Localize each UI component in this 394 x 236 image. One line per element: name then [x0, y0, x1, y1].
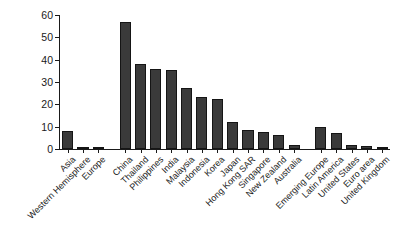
bar-series — [60, 15, 390, 149]
bar — [377, 147, 388, 149]
x-axis-tick — [68, 150, 69, 153]
y-axis-tick-label: 0 — [3, 144, 53, 155]
x-axis-tick-label: Thailand — [119, 155, 150, 186]
bar — [212, 99, 223, 149]
x-axis-tick — [248, 150, 249, 153]
y-axis-tick-label: 10 — [3, 121, 53, 132]
x-axis-tick — [141, 150, 142, 153]
x-axis-tick-label: Korea — [203, 155, 226, 178]
bar — [227, 122, 238, 149]
y-axis-tick-label: 20 — [3, 99, 53, 110]
x-axis-tick — [367, 150, 368, 153]
x-axis-tick — [187, 150, 188, 153]
x-axis-tick-label: Malaysia — [165, 155, 196, 186]
x-axis-tick-label: Euro area — [342, 155, 376, 189]
bar — [361, 146, 372, 149]
y-axis-tick-label: 40 — [3, 54, 53, 65]
bar — [289, 145, 300, 149]
bar-chart: 0102030405060 AsiaWestern HemisphereEuro… — [0, 0, 394, 236]
x-axis-tick — [336, 150, 337, 153]
x-axis-tick-label: New Zealand — [244, 155, 288, 199]
x-axis-tick — [125, 150, 126, 153]
bar — [93, 147, 104, 149]
x-axis-tick — [83, 150, 84, 153]
x-axis-tick-label: Philippines — [128, 155, 165, 192]
x-axis-tick-label: India — [160, 155, 180, 175]
x-axis-tick-label: Emerging Europe — [274, 155, 330, 211]
bar — [166, 70, 177, 149]
bar — [120, 22, 131, 149]
bar — [77, 147, 88, 149]
x-axis-tick-label: Europe — [81, 155, 108, 182]
x-axis-tick-label: Australia — [272, 155, 303, 186]
y-axis-tick-label: 50 — [3, 32, 53, 43]
x-axis-tick-label: United Kingdom — [340, 155, 392, 207]
x-axis-line — [59, 149, 390, 150]
y-axis-labels: 0102030405060 — [0, 0, 53, 236]
bar — [62, 131, 73, 149]
bar — [273, 135, 284, 149]
y-axis-tick-label: 60 — [3, 10, 53, 21]
x-axis-tick-label: Latin America — [301, 155, 346, 200]
x-axis-tick — [279, 150, 280, 153]
bar — [181, 88, 192, 149]
x-axis-tick-label: United States — [316, 155, 361, 200]
x-axis-tick — [202, 150, 203, 153]
y-axis-tick-label: 30 — [3, 77, 53, 88]
x-axis-tick-label: Indonesia — [177, 155, 211, 189]
bar — [331, 133, 342, 149]
x-axis-tick — [156, 150, 157, 153]
x-axis-tick-label: Hong Kong SAR — [204, 155, 257, 208]
x-axis-tick — [217, 150, 218, 153]
bar — [242, 130, 253, 149]
x-axis-tick — [98, 150, 99, 153]
x-axis-tick — [233, 150, 234, 153]
x-axis-tick — [294, 150, 295, 153]
bar — [346, 145, 357, 149]
bar — [258, 132, 269, 149]
bar — [150, 69, 161, 149]
x-axis-tick — [321, 150, 322, 153]
bar — [315, 127, 326, 149]
x-axis-tick — [263, 150, 264, 153]
x-axis-tick-label: Japan — [218, 155, 242, 179]
x-axis-tick-label: Singapore — [237, 155, 272, 190]
x-axis-tick — [352, 150, 353, 153]
x-axis-tick-label: Asia — [58, 155, 77, 174]
x-axis-tick — [382, 150, 383, 153]
x-axis-tick-label: China — [112, 155, 135, 178]
x-axis-tick — [171, 150, 172, 153]
bar — [196, 97, 207, 149]
bar — [135, 64, 146, 149]
